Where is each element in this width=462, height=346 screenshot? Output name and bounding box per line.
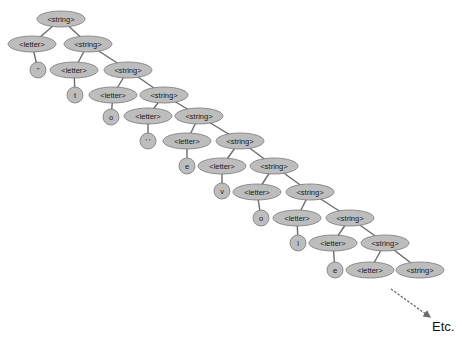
node-string: <string>	[64, 36, 112, 52]
node-letter: <letter>	[309, 235, 357, 251]
node-string: <string>	[37, 11, 85, 27]
node-string: <string>	[396, 262, 444, 278]
node-label: <letter>	[174, 137, 200, 146]
node-letter: <letter>	[346, 262, 394, 278]
node-label: ' '	[146, 137, 152, 146]
node-label: <letter>	[61, 66, 87, 75]
node-label: <string>	[406, 266, 434, 275]
node-terminal-char: e	[327, 262, 343, 278]
node-terminal-char: t	[67, 87, 83, 103]
node-label: <letter>	[100, 91, 126, 100]
node-label: <letter>	[135, 112, 161, 121]
node-string: <string>	[140, 87, 188, 103]
node-label: <string>	[296, 188, 324, 197]
node-string: <string>	[326, 210, 374, 226]
node-terminal-char: l	[290, 235, 306, 251]
node-terminal-char: e	[179, 158, 195, 174]
node-letter: <letter>	[50, 62, 98, 78]
node-string: <string>	[104, 62, 152, 78]
node-label: e	[333, 266, 337, 275]
node-letter: <letter>	[124, 108, 172, 124]
node-terminal-char: o	[253, 210, 269, 226]
node-terminal-char: ' '	[140, 133, 156, 149]
node-terminal-char: v	[214, 183, 230, 199]
node-letter: <letter>	[163, 133, 211, 149]
node-letter: <letter>	[8, 36, 56, 52]
etc-label: Etc.	[432, 319, 454, 334]
node-terminal-char: "	[30, 62, 46, 78]
node-label: <string>	[114, 66, 142, 75]
node-string: <string>	[250, 158, 298, 174]
node-string: <string>	[361, 235, 409, 251]
node-label: <string>	[336, 214, 364, 223]
node-label: <letter>	[209, 162, 235, 171]
node-string: <string>	[175, 108, 223, 124]
node-letter: <letter>	[233, 184, 281, 200]
node-label: <string>	[260, 162, 288, 171]
node-label: o	[109, 113, 113, 122]
node-label: <letter>	[357, 266, 383, 275]
node-terminal-char: o	[103, 109, 119, 125]
node-label: <letter>	[320, 239, 346, 248]
node-label: <string>	[150, 91, 178, 100]
dashed-arrow-icon	[391, 289, 430, 317]
node-label: "	[37, 66, 40, 75]
node-label: v	[220, 187, 224, 196]
parse-tree-diagram: <string><letter><string>"<letter><string…	[0, 0, 462, 346]
node-label: e	[185, 162, 189, 171]
node-label: <string>	[371, 239, 399, 248]
tree-nodes: <string><letter><string>"<letter><string…	[8, 11, 444, 278]
node-label: <string>	[47, 15, 75, 24]
node-string: <string>	[286, 184, 334, 200]
continuation-indicator: Etc.	[391, 289, 454, 334]
node-label: <string>	[226, 137, 254, 146]
node-label: o	[259, 214, 263, 223]
node-label: <string>	[185, 112, 213, 121]
node-label: <string>	[74, 40, 102, 49]
node-label: <letter>	[284, 214, 310, 223]
node-label: <letter>	[244, 188, 270, 197]
node-letter: <letter>	[89, 87, 137, 103]
node-letter: <letter>	[273, 210, 321, 226]
node-letter: <letter>	[198, 158, 246, 174]
node-label: <letter>	[19, 40, 45, 49]
node-string: <string>	[216, 133, 264, 149]
